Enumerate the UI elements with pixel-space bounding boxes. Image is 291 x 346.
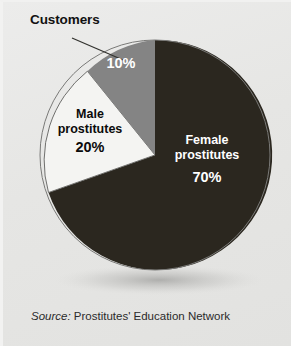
slice-value-female-prostitutes: 70% [161,169,253,186]
source-note: Source: Prostitutes' Education Network [31,310,230,322]
source-value: Prostitutes' Education Network [71,310,230,322]
slice-label-female-prostitutes: Female prostitutes 70% [161,133,253,186]
callout-label-customers: Customers [30,12,100,27]
slice-label-male-line1: Male [76,107,104,121]
slice-label-male-prostitutes: Male prostitutes 20% [47,107,133,156]
slice-label-male-line2: prostitutes [58,122,123,136]
source-label: Source: [31,310,71,322]
slice-value-male-prostitutes: 20% [47,139,133,156]
slice-value-customers: 10% [95,55,147,72]
slice-label-female-line1: Female [185,133,228,147]
pie-chart-figure: Customers 10% Male prostitutes 20% Femal… [0,0,291,346]
slice-label-female-line2: prostitutes [175,148,240,162]
